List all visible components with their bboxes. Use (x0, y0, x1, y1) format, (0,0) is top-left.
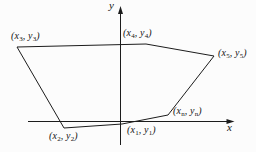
vertex-label-text: (x (11, 30, 19, 41)
vertex-label-text: ) (198, 105, 202, 116)
vertex-label-text: (x (218, 47, 226, 58)
vertex-label-text: (x (173, 105, 181, 116)
vertex-label-text: (x (49, 130, 57, 141)
vertex-label-text: ) (243, 47, 247, 58)
vertex-label-v1: (x1, y1) (127, 124, 156, 135)
vertex-label-text: , y (139, 124, 149, 135)
x-axis-label: x (227, 122, 232, 133)
vertex-label-text: (x (127, 124, 135, 135)
vertex-label-text: , y (61, 130, 71, 141)
y-axis-label: y (109, 0, 114, 11)
vertex-label-text: ) (148, 27, 152, 38)
y-axis-arrow-icon (118, 6, 123, 14)
vertex-label-text: , y (185, 105, 195, 116)
polygon-diagram: y x (x1, y1) (x2, y2) (x3, y3) (x4, y4) … (0, 0, 256, 152)
vertex-label-v2: (x2, y2) (49, 130, 78, 141)
vertex-label-text: ) (152, 124, 156, 135)
vertex-label-text: , y (230, 47, 240, 58)
vertex-label-text: , y (23, 30, 33, 41)
vertex-label-v3: (x3, y3) (11, 30, 40, 41)
vertex-label-text: (x (123, 27, 131, 38)
vertex-label-text: , y (135, 27, 145, 38)
vertex-label-vn: (xn, yn) (173, 105, 202, 116)
vertex-label-text: ) (74, 130, 78, 141)
vertex-label-v4: (x4, y4) (123, 27, 152, 38)
vertex-label-v5: (x5, y5) (218, 47, 247, 58)
vertex-label-text: ) (36, 30, 40, 41)
